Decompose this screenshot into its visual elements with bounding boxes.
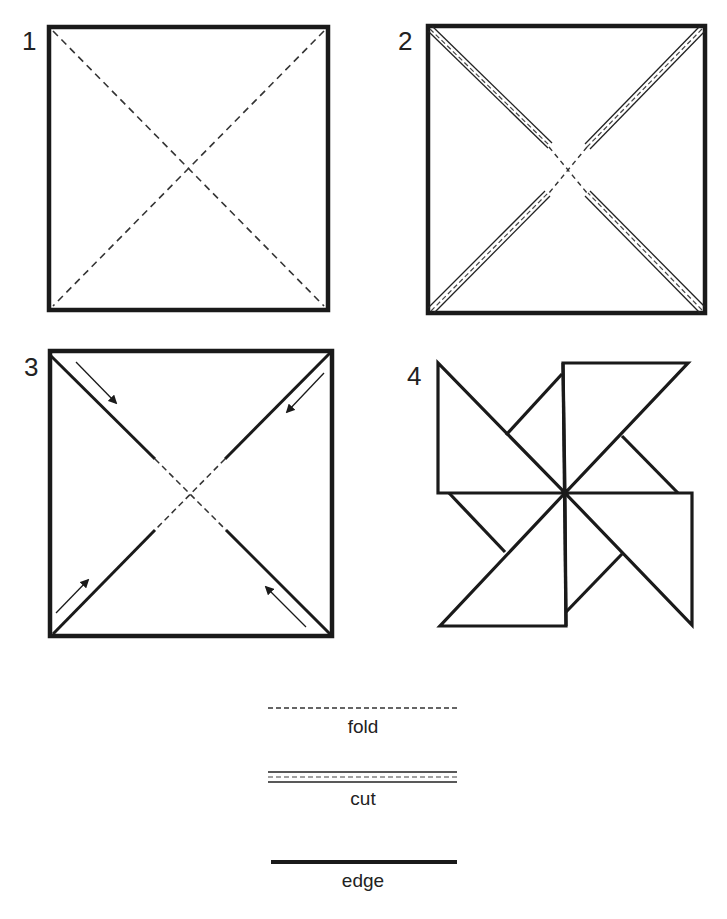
step-2-square [428, 26, 705, 313]
arrow-icon [266, 587, 306, 627]
arrow-icon [76, 362, 116, 403]
step-1-square [49, 27, 328, 310]
cut-line-bottom-right [585, 191, 705, 313]
pinwheel-instructions-diagram [0, 0, 727, 919]
cut-line-top-left [428, 26, 552, 148]
arrow-icon [56, 580, 88, 613]
legend-cut-label: cut [268, 789, 458, 809]
step-4-pinwheel [438, 363, 692, 626]
step-3-square [50, 351, 332, 636]
legend-cut-line [268, 772, 457, 782]
cut-line-bottom-left [428, 191, 550, 313]
cut-line-top-right [585, 26, 705, 149]
legend-fold-label: fold [268, 717, 458, 737]
legend-edge-label: edge [268, 871, 458, 891]
